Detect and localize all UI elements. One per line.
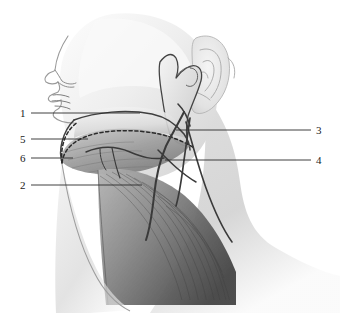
label-6: 6 (20, 153, 26, 164)
label-4: 4 (316, 155, 322, 166)
anatomical-figure: 1 5 6 2 3 4 (0, 0, 340, 313)
label-2: 2 (20, 180, 26, 191)
label-5: 5 (20, 134, 26, 145)
label-3: 3 (316, 125, 322, 136)
illustration-canvas (0, 0, 340, 313)
label-1: 1 (20, 108, 26, 119)
